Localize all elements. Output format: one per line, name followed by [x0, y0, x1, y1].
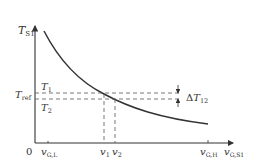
x-axis-label: vG,S1: [224, 146, 244, 158]
v-gl-label: vG,L: [41, 146, 57, 158]
y-axis-label: TS1: [18, 24, 35, 38]
t2-label: T2: [41, 102, 52, 115]
v-gh-label: vG,H: [200, 146, 217, 158]
origin-label: 0: [26, 146, 32, 157]
v2-label: v2: [112, 146, 122, 159]
temperature-velocity-diagram: TS1 Tref T1 T2 ΔT12 0 vG,L v1 v2 vG,H vG…: [0, 0, 260, 168]
temperature-curve: [44, 31, 208, 124]
v1-label: v1: [100, 146, 110, 159]
delta-t12-label: ΔT12: [186, 92, 208, 105]
t1-label: T1: [41, 81, 52, 94]
t-ref-label: Tref: [15, 89, 32, 102]
